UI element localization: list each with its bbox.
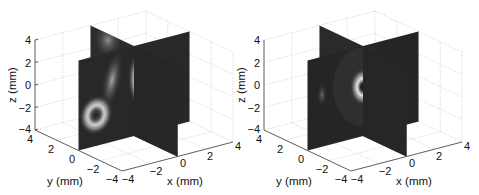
right-y-label: y (mm): [276, 175, 312, 187]
svg-text:0: 0: [180, 157, 186, 169]
svg-text:−2: −2: [316, 163, 329, 175]
left-y-label: y (mm): [47, 175, 83, 187]
svg-text:2: 2: [25, 57, 31, 69]
svg-text:2: 2: [277, 143, 283, 155]
svg-text:2: 2: [48, 143, 54, 155]
figure: 4 2 0 −2 −4 z (mm) 4 2 0 −2 −4 y (mm) −4…: [0, 0, 479, 195]
svg-text:0: 0: [298, 153, 304, 165]
svg-text:−4: −4: [335, 173, 348, 185]
svg-text:−4: −4: [106, 173, 119, 185]
svg-text:2: 2: [436, 150, 442, 162]
svg-text:−4: −4: [122, 173, 135, 185]
svg-text:4: 4: [27, 133, 33, 145]
right-x-label: x (mm): [396, 175, 432, 187]
svg-text:2: 2: [207, 150, 213, 162]
svg-text:−2: −2: [379, 165, 392, 177]
svg-text:4: 4: [256, 133, 262, 145]
svg-text:2: 2: [254, 57, 260, 69]
svg-text:0: 0: [254, 79, 260, 91]
svg-text:−2: −2: [87, 163, 100, 175]
svg-text:−4: −4: [351, 173, 364, 185]
svg-text:−2: −2: [18, 102, 31, 114]
left-panel: 4 2 0 −2 −4 z (mm) 4 2 0 −2 −4 y (mm) −4…: [6, 11, 241, 187]
svg-text:4: 4: [254, 34, 260, 46]
right-z-ticks: 4 2 0 −2 −4: [247, 34, 260, 135]
svg-text:4: 4: [25, 34, 31, 46]
left-x-label: x (mm): [167, 175, 203, 187]
right-panel: 4 2 0 −2 −4 z (mm) 4 2 0 −2 −4 y (mm) −4…: [235, 11, 470, 187]
svg-text:0: 0: [409, 157, 415, 169]
svg-text:−2: −2: [247, 102, 260, 114]
svg-text:−2: −2: [150, 165, 163, 177]
left-z-label: z (mm): [6, 67, 18, 103]
right-z-label: z (mm): [235, 67, 247, 103]
svg-text:4: 4: [235, 140, 241, 152]
svg-text:4: 4: [464, 140, 470, 152]
svg-text:0: 0: [69, 153, 75, 165]
svg-text:0: 0: [25, 79, 31, 91]
